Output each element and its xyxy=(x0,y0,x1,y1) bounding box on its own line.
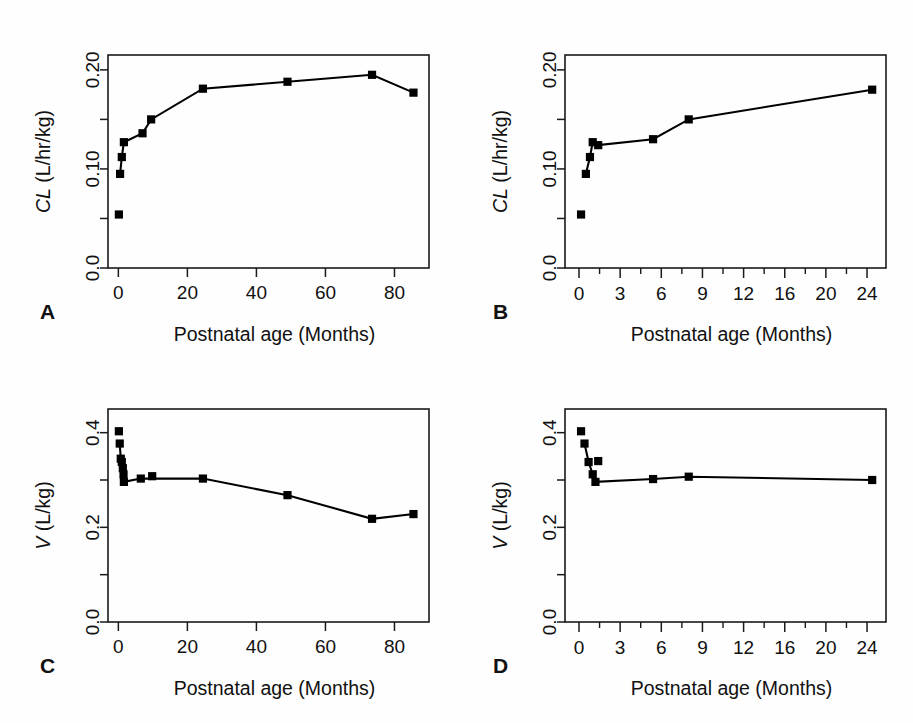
data-point-marker xyxy=(868,476,876,484)
panel-letter-d: D xyxy=(493,654,508,678)
x-tick-label: 60 xyxy=(315,282,336,303)
plot-frame xyxy=(565,409,886,622)
data-point-marker xyxy=(119,470,127,478)
x-tick-label: 24 xyxy=(856,283,878,304)
panel-d: 0.00.20.4036912162024V (L/kg)Postnatal a… xyxy=(457,362,913,723)
data-point-marker xyxy=(120,138,128,146)
x-axis-title: Postnatal age (Months) xyxy=(631,677,833,699)
x-tick-label: 40 xyxy=(246,636,267,657)
x-tick-label: 12 xyxy=(733,637,754,658)
y-tick-label: 0.4 xyxy=(82,419,103,446)
x-tick-label: 0 xyxy=(113,636,124,657)
x-tick-label: 20 xyxy=(815,637,836,658)
data-point-marker xyxy=(148,472,156,480)
data-point-marker xyxy=(137,474,145,482)
data-point-marker xyxy=(649,135,657,143)
y-axis-title: CL (L/hr/kg) xyxy=(489,110,511,213)
x-tick-label: 9 xyxy=(697,283,708,304)
x-tick-label: 16 xyxy=(774,637,795,658)
panel-letter-b: B xyxy=(493,300,508,324)
x-tick-label: 6 xyxy=(656,283,667,304)
y-tick-label: 0.10 xyxy=(539,150,560,187)
data-point-marker xyxy=(283,491,291,499)
data-point-marker xyxy=(138,129,146,137)
data-point-marker xyxy=(591,478,599,486)
panel-d-plot: 0.00.20.4036912162024V (L/kg)Postnatal a… xyxy=(457,362,913,723)
panel-a-plot: 0.00.100.20020406080CL (L/hr/kg)Postnata… xyxy=(0,8,456,369)
y-axis-title: V (L/kg) xyxy=(489,481,511,549)
data-point-marker xyxy=(685,473,693,481)
y-tick-label: 0.4 xyxy=(539,419,560,446)
data-point-marker xyxy=(283,78,291,86)
data-point-marker xyxy=(577,210,585,218)
data-point-marker xyxy=(199,85,207,93)
x-tick-label: 0 xyxy=(113,282,124,303)
y-tick-label: 0.2 xyxy=(539,514,560,540)
x-axis-title: Postnatal age (Months) xyxy=(174,323,376,345)
data-point-marker xyxy=(868,86,876,94)
panel-c-axes: 0.00.20.4020406080V (L/kg)Postnatal age … xyxy=(32,409,429,699)
x-tick-label: 60 xyxy=(315,636,336,657)
y-axis-title: V (L/kg) xyxy=(32,481,54,549)
data-series-line xyxy=(584,444,872,482)
data-point-marker xyxy=(580,439,588,447)
plot-frame xyxy=(565,55,886,268)
data-point-marker xyxy=(409,510,417,518)
data-point-marker xyxy=(147,115,155,123)
data-point-marker xyxy=(685,115,693,123)
x-tick-label: 20 xyxy=(815,283,836,304)
data-point-marker xyxy=(582,170,590,178)
panel-b: 0.00.100.20036912162024CL (L/hr/kg)Postn… xyxy=(457,8,913,369)
panel-d-axes: 0.00.20.4036912162024V (L/kg)Postnatal a… xyxy=(489,409,886,699)
figure-container: 0.00.100.20020406080CL (L/hr/kg)Postnata… xyxy=(0,0,913,723)
y-tick-label: 0.0 xyxy=(539,255,560,281)
data-point-marker xyxy=(368,71,376,79)
data-series-line xyxy=(120,444,414,519)
x-tick-label: 40 xyxy=(246,282,267,303)
data-point-marker xyxy=(594,141,602,149)
x-tick-label: 20 xyxy=(177,282,198,303)
panel-letter-c: C xyxy=(40,654,55,678)
x-tick-label: 16 xyxy=(774,283,795,304)
data-point-marker xyxy=(199,474,207,482)
panel-b-axes: 0.00.100.20036912162024CL (L/hr/kg)Postn… xyxy=(489,51,886,345)
x-tick-label: 0 xyxy=(574,637,585,658)
x-tick-label: 3 xyxy=(615,637,626,658)
data-point-marker xyxy=(115,210,123,218)
x-tick-label: 24 xyxy=(856,637,878,658)
data-point-marker xyxy=(594,457,602,465)
data-point-marker xyxy=(116,170,124,178)
data-point-marker xyxy=(118,153,126,161)
panel-c-plot: 0.00.20.4020406080V (L/kg)Postnatal age … xyxy=(0,362,456,723)
data-series-line xyxy=(120,75,413,174)
x-tick-label: 0 xyxy=(574,283,585,304)
y-tick-label: 0.2 xyxy=(82,514,103,540)
data-series-line xyxy=(586,90,872,174)
data-point-marker xyxy=(589,470,597,478)
y-tick-label: 0.0 xyxy=(82,255,103,281)
x-tick-label: 20 xyxy=(177,636,198,657)
data-point-marker xyxy=(577,427,585,435)
data-point-marker xyxy=(368,515,376,523)
panel-b-plot: 0.00.100.20036912162024CL (L/hr/kg)Postn… xyxy=(457,8,913,369)
panel-a-axes: 0.00.100.20020406080CL (L/hr/kg)Postnata… xyxy=(32,51,429,345)
data-point-marker xyxy=(120,478,128,486)
x-tick-label: 9 xyxy=(697,637,708,658)
data-point-marker xyxy=(586,153,594,161)
y-tick-label: 0.0 xyxy=(539,609,560,635)
x-axis-title: Postnatal age (Months) xyxy=(174,677,376,699)
data-point-marker xyxy=(409,89,417,97)
panel-letter-a: A xyxy=(40,300,55,324)
plot-frame xyxy=(108,409,429,622)
y-tick-label: 0.0 xyxy=(82,609,103,635)
plot-frame xyxy=(108,55,429,268)
x-tick-label: 12 xyxy=(733,283,754,304)
y-tick-label: 0.20 xyxy=(82,51,103,88)
data-point-marker xyxy=(115,427,123,435)
data-point-marker xyxy=(649,475,657,483)
x-tick-label: 80 xyxy=(384,636,405,657)
data-point-marker xyxy=(116,439,124,447)
x-tick-label: 3 xyxy=(615,283,626,304)
y-tick-label: 0.20 xyxy=(539,51,560,88)
y-tick-label: 0.10 xyxy=(82,150,103,187)
